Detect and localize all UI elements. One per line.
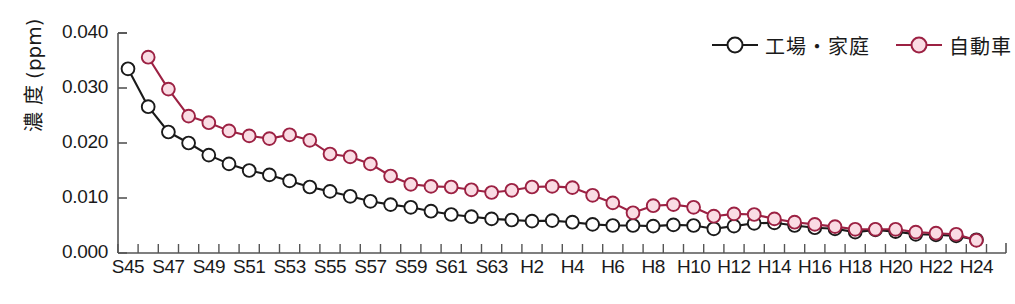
legend-label-automobile: 自動車 (949, 31, 1012, 60)
chart-container: 濃 度 (ppm) 0.0000.0100.0200.0300.040 S45S… (0, 0, 1015, 304)
series-factory-household (122, 62, 983, 246)
legend-label-factory-household: 工場・家庭 (765, 31, 870, 60)
legend-item-factory-household[interactable]: 工場・家庭 (712, 31, 870, 60)
legend-marker-automobile (896, 34, 942, 56)
chart-legend: 工場・家庭 自動車 (712, 30, 1012, 60)
legend-marker-factory-household (712, 34, 758, 56)
legend-item-automobile[interactable]: 自動車 (896, 31, 1012, 60)
data-series-group (122, 51, 983, 247)
axis-lines (118, 33, 1006, 253)
series-automobile (142, 51, 983, 247)
